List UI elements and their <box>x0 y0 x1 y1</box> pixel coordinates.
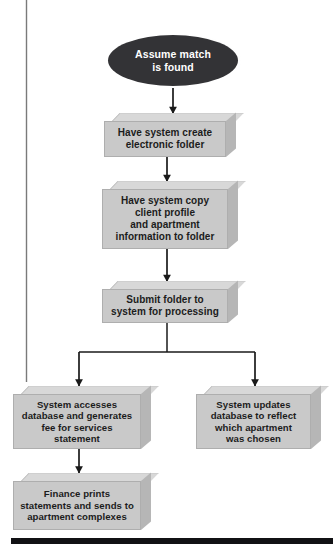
node-create-folder-top-face <box>112 113 244 121</box>
node-copy-profile-side-face <box>228 181 238 249</box>
node-copy-profile[interactable]: Have system copy client profile and apar… <box>102 181 238 249</box>
node-update-database-top-face <box>204 386 329 394</box>
node-finance-prints-label: Finance prints statements and sends to a… <box>17 488 137 523</box>
node-submit-folder-label: Submit folder to system for processing <box>108 294 222 318</box>
node-create-folder-label: Have system create electronic folder <box>115 127 215 151</box>
node-finance-prints-front-face: Finance prints statements and sends to a… <box>13 481 141 530</box>
node-create-folder-side-face <box>226 113 236 157</box>
node-update-database-label: System updates database to reflect which… <box>208 399 300 445</box>
node-access-database-side-face <box>141 386 151 449</box>
node-access-database-front-face: System accesses database and generates f… <box>13 394 141 449</box>
node-access-database[interactable]: System accesses database and generates f… <box>13 386 151 449</box>
node-finance-prints[interactable]: Finance prints statements and sends to a… <box>13 473 151 530</box>
node-submit-folder-front-face: Submit folder to system for processing <box>102 289 228 323</box>
node-start-label: Assume match is found <box>135 48 211 73</box>
node-create-folder-front-face: Have system create electronic folder <box>104 121 226 157</box>
node-update-database-side-face <box>311 386 321 449</box>
node-submit-folder[interactable]: Submit folder to system for processing <box>102 281 238 323</box>
node-update-database-front-face: System updates database to reflect which… <box>196 394 311 449</box>
node-update-database[interactable]: System updates database to reflect which… <box>196 386 321 449</box>
node-access-database-top-face <box>21 386 159 394</box>
flowchart-canvas: Assume match is found Have system create… <box>0 0 333 546</box>
bottom-rule <box>11 538 333 544</box>
node-copy-profile-front-face: Have system copy client profile and apar… <box>102 189 228 249</box>
node-start-terminator[interactable]: Assume match is found <box>108 35 238 86</box>
node-copy-profile-label: Have system copy client profile and apar… <box>113 195 218 243</box>
node-finance-prints-top-face <box>21 473 159 481</box>
node-create-folder[interactable]: Have system create electronic folder <box>104 113 236 157</box>
node-access-database-label: System accesses database and generates f… <box>19 399 135 445</box>
node-finance-prints-side-face <box>141 473 151 530</box>
node-copy-profile-top-face <box>110 181 246 189</box>
node-submit-folder-side-face <box>228 281 238 323</box>
node-submit-folder-top-face <box>110 281 246 289</box>
